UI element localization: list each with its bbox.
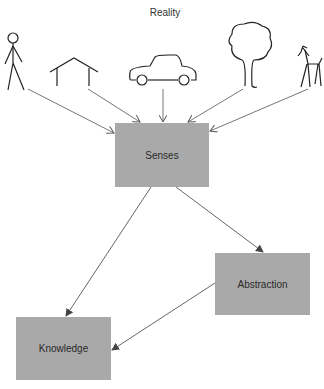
knowledge-box: Knowledge <box>16 317 111 380</box>
knowledge-label: Knowledge <box>39 343 88 354</box>
arrow-house-senses <box>88 89 140 122</box>
house-icon <box>50 58 98 86</box>
arrow-abstraction-knowledge <box>112 283 215 350</box>
tree-icon <box>229 22 272 87</box>
arrow-senses-knowledge <box>66 187 151 316</box>
car-icon <box>130 55 196 85</box>
senses-box: Senses <box>115 123 209 187</box>
arrow-senses-abstraction <box>176 187 263 252</box>
abstraction-label: Abstraction <box>237 279 287 290</box>
senses-label: Senses <box>145 150 178 161</box>
arrow-tree-senses <box>188 89 243 122</box>
arrow-person-senses <box>28 89 114 133</box>
person-icon <box>5 33 24 90</box>
abstraction-box: Abstraction <box>215 253 310 315</box>
arrow-deer-senses <box>210 89 308 131</box>
deer-icon <box>298 46 322 87</box>
